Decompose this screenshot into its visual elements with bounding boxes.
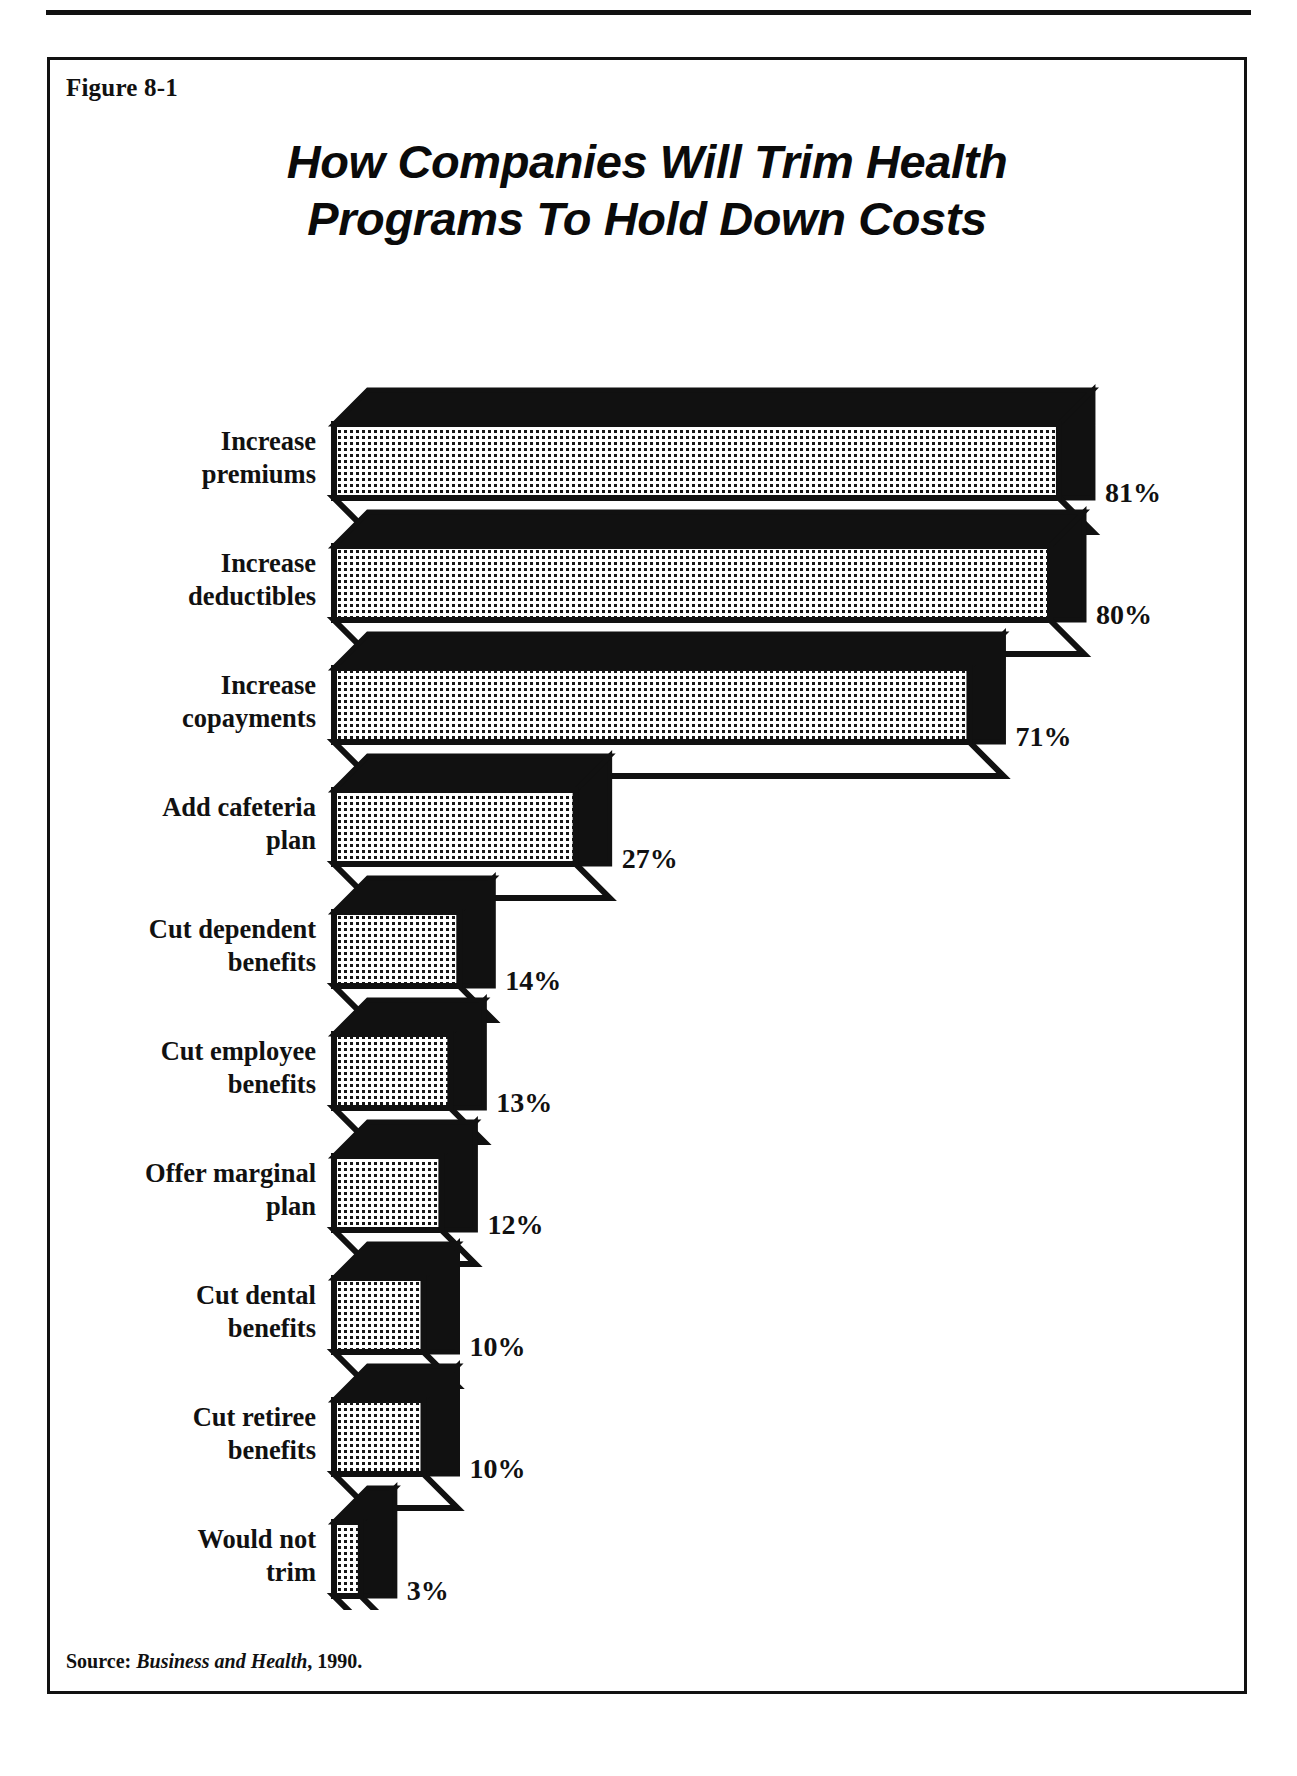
- bar-category-label-5: Cut dependentbenefits: [149, 914, 316, 977]
- svg-text:Would not: Would not: [197, 1524, 316, 1554]
- svg-text:Cut employee: Cut employee: [161, 1036, 317, 1066]
- chart-plot-area: IncreasepremiumsIncreasedeductiblesIncre…: [50, 370, 1244, 1610]
- svg-text:benefits: benefits: [228, 1313, 316, 1343]
- bar-category-label-7: Offer marginalplan: [145, 1158, 316, 1221]
- svg-text:plan: plan: [266, 825, 316, 855]
- bar-category-label-6: Cut employeebenefits: [161, 1036, 317, 1099]
- bars-group: [334, 390, 1093, 1610]
- bar-value-label-5: 14%: [505, 965, 561, 996]
- bar-category-label-10: Would nottrim: [197, 1524, 316, 1587]
- bar-category-label-9: Cut retireebenefits: [193, 1402, 317, 1465]
- figure-label: Figure 8-1: [66, 74, 178, 102]
- chart-title: How Companies Will Trim Health Programs …: [50, 133, 1244, 248]
- bar-value-label-4: 27%: [622, 843, 678, 874]
- figure-box: Figure 8-1 How Companies Will Trim Healt…: [47, 57, 1247, 1694]
- svg-text:premiums: premiums: [202, 459, 316, 489]
- bar-value-label-1: 81%: [1105, 477, 1161, 508]
- svg-text:benefits: benefits: [228, 947, 316, 977]
- chart-title-line-2: Programs To Hold Down Costs: [50, 190, 1244, 247]
- svg-text:Increase: Increase: [221, 548, 316, 578]
- bar-value-label-2: 80%: [1096, 599, 1152, 630]
- bar-chart-svg: IncreasepremiumsIncreasedeductiblesIncre…: [50, 370, 1244, 1610]
- source-prefix: Source:: [66, 1650, 131, 1672]
- bar-category-label-1: Increasepremiums: [202, 426, 317, 489]
- bar-category-label-4: Add cafeteriaplan: [162, 792, 316, 855]
- source-publication: Business and Health: [136, 1650, 307, 1672]
- bar-value-label-3: 71%: [1015, 721, 1071, 752]
- category-labels-group: IncreasepremiumsIncreasedeductiblesIncre…: [145, 426, 316, 1587]
- svg-text:benefits: benefits: [228, 1435, 316, 1465]
- svg-text:Increase: Increase: [221, 426, 316, 456]
- bar-value-label-9: 10%: [470, 1453, 526, 1484]
- page-top-rule: [46, 10, 1251, 15]
- bar-value-label-7: 12%: [487, 1209, 543, 1240]
- bar-value-label-10: 3%: [407, 1575, 449, 1606]
- svg-text:Offer marginal: Offer marginal: [145, 1158, 316, 1188]
- svg-text:copayments: copayments: [182, 703, 316, 733]
- svg-text:Cut dental: Cut dental: [196, 1280, 316, 1310]
- svg-text:plan: plan: [266, 1191, 316, 1221]
- svg-text:trim: trim: [266, 1557, 316, 1587]
- bar-category-label-2: Increasedeductibles: [188, 548, 316, 611]
- svg-text:benefits: benefits: [228, 1069, 316, 1099]
- bar-category-label-3: Increasecopayments: [182, 670, 316, 733]
- bar-value-label-8: 10%: [470, 1331, 526, 1362]
- svg-text:Cut dependent: Cut dependent: [149, 914, 316, 944]
- svg-text:Add cafeteria: Add cafeteria: [162, 792, 316, 822]
- source-note: Source: Business and Health, 1990.: [66, 1650, 362, 1673]
- chart-title-line-1: How Companies Will Trim Health: [50, 133, 1244, 190]
- bar-category-label-8: Cut dentalbenefits: [196, 1280, 316, 1343]
- bar-value-label-6: 13%: [496, 1087, 552, 1118]
- svg-text:deductibles: deductibles: [188, 581, 316, 611]
- source-suffix: , 1990.: [307, 1650, 362, 1672]
- bar-10: [334, 1488, 395, 1610]
- svg-text:Cut retiree: Cut retiree: [193, 1402, 317, 1432]
- svg-text:Increase: Increase: [221, 670, 316, 700]
